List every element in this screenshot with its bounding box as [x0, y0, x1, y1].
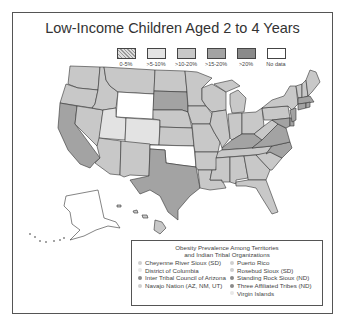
state-AR — [195, 152, 218, 170]
list-item: Inter Tribal Council of Arizona — [138, 274, 230, 282]
item-label: Virgin Islands — [237, 290, 274, 297]
list-item: Three Affiliated Tribes (ND) — [230, 282, 322, 290]
list-item: Standing Rock Sioux (ND) — [230, 274, 322, 282]
state-NY — [262, 86, 298, 110]
state-KS — [159, 127, 194, 146]
item-label: Navajo Nation (AZ, NM, UT) — [145, 282, 222, 289]
tribal-legend-right: Puerto Rico Rosebud Sioux (SD) Standing … — [230, 259, 322, 297]
tribal-legend-left: Cheyenne River Sioux (SD) District of Co… — [138, 259, 230, 297]
dot-icon — [138, 284, 142, 288]
item-label: Rosebud Sioux (SD) — [237, 267, 293, 274]
dot-icon — [230, 261, 234, 265]
state-WY — [116, 92, 154, 119]
dot-icon — [230, 276, 234, 280]
dot-icon — [230, 268, 234, 272]
state-AK — [64, 190, 120, 240]
state-HI — [154, 220, 166, 234]
state-CT — [298, 103, 306, 110]
state-ND — [154, 70, 187, 92]
title-line-2: and Indian Tribal Organizations — [132, 251, 322, 258]
state-CO — [125, 118, 160, 145]
state-ME — [306, 70, 320, 96]
dot-icon — [138, 268, 142, 272]
title-line-1: Obesity Prevalence Among Territories — [132, 244, 322, 251]
state-FL — [236, 180, 278, 214]
list-item: Navajo Nation (AZ, NM, UT) — [138, 282, 230, 290]
state-RI — [306, 102, 310, 108]
dot-icon — [138, 276, 142, 280]
item-label: Inter Tribal Council of Arizona — [145, 274, 226, 281]
dot-icon — [230, 291, 234, 295]
state-PA — [262, 106, 290, 120]
state-SD — [153, 91, 188, 112]
item-label: District of Columbia — [145, 267, 199, 274]
tribal-legend-title: Obesity Prevalence Among Territories and… — [132, 244, 322, 258]
list-item: Cheyenne River Sioux (SD) — [138, 259, 230, 267]
dot-icon — [230, 284, 234, 288]
list-item: Rosebud Sioux (SD) — [230, 267, 322, 275]
item-label: Cheyenne River Sioux (SD) — [145, 259, 221, 266]
state-NM — [120, 141, 150, 177]
list-item: Virgin Islands — [230, 289, 322, 297]
tribal-legend-box: Obesity Prevalence Among Territories and… — [131, 240, 323, 306]
dot-icon — [138, 261, 142, 265]
list-item: District of Columbia — [138, 267, 230, 275]
item-label: Three Affiliated Tribes (ND) — [237, 282, 312, 289]
hawaii-islands — [117, 205, 148, 218]
list-item: Puerto Rico — [230, 259, 322, 267]
aleutian-islands — [29, 233, 65, 243]
item-label: Puerto Rico — [237, 259, 269, 266]
item-label: Standing Rock Sioux (ND) — [237, 274, 309, 281]
